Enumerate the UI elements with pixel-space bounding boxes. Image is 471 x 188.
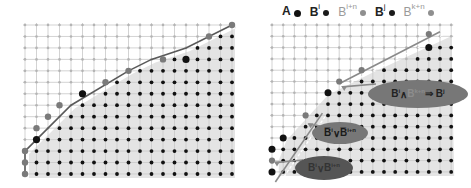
lattice-point-outside	[316, 103, 319, 106]
lattice-point-inside	[427, 170, 431, 174]
lattice-point-inside	[138, 149, 142, 153]
lattice-point-inside	[150, 92, 154, 96]
lattice-point-inside	[161, 161, 165, 165]
lattice-point-outside	[116, 47, 119, 50]
lattice-point-inside	[35, 149, 39, 153]
lattice-point-inside	[161, 69, 165, 73]
lattice-point-inside	[337, 91, 341, 95]
lattice-point-outside	[24, 70, 27, 73]
lattice-point-inside	[326, 114, 330, 118]
lattice-point-inside	[438, 136, 442, 140]
lattice-point-inside	[196, 103, 200, 107]
lattice-point-outside	[271, 69, 274, 72]
lattice-point-outside	[93, 81, 96, 84]
lattice-point-outside	[338, 46, 341, 49]
lattice-point-inside	[127, 80, 131, 84]
lattice-point-outside	[24, 35, 27, 38]
lattice-point-inside	[196, 57, 200, 61]
annotation-term: B̅i	[324, 127, 333, 138]
lattice-point-inside	[382, 114, 386, 118]
lattice-point-outside	[24, 81, 27, 84]
lattice-point-inside	[393, 159, 397, 163]
lattice-point-inside	[326, 102, 330, 106]
lattice-point-inside	[184, 161, 188, 165]
lattice-point-inside	[230, 172, 234, 176]
lattice-point-outside	[327, 46, 330, 49]
lattice-point-inside	[427, 159, 431, 163]
legend: ABiBi+nBjBk+n	[282, 3, 443, 19]
lattice-point-outside	[338, 35, 341, 38]
lattice-point-outside	[293, 24, 296, 27]
lattice-point-inside	[81, 161, 85, 165]
lattice-point-outside	[58, 24, 61, 27]
lattice-point-outside	[173, 47, 176, 50]
lattice-point-inside	[449, 46, 453, 50]
lattice-point-inside	[360, 159, 364, 163]
lattice-point-inside	[104, 172, 108, 176]
lattice-point-outside	[127, 47, 130, 50]
lattice-point-inside	[360, 80, 364, 84]
lattice-point-inside	[416, 125, 420, 129]
lattice-point-inside	[81, 149, 85, 153]
lattice-point-inside	[416, 68, 420, 72]
lattice-point-inside	[449, 170, 453, 174]
vertex-point	[280, 135, 287, 142]
lattice-point-outside	[35, 81, 38, 84]
lattice-point-inside	[207, 126, 211, 130]
lattice-point-inside	[150, 138, 154, 142]
lattice-point-inside	[92, 138, 96, 142]
lattice-point-outside	[293, 80, 296, 83]
lattice-point-outside	[58, 92, 61, 95]
lattice-point-inside	[219, 57, 223, 61]
annotation-term: ∨	[317, 163, 324, 174]
lattice-point-inside	[207, 57, 211, 61]
legend-label: Bk+n	[404, 4, 425, 19]
lattice-point-inside	[360, 147, 364, 151]
lattice-point-outside	[416, 24, 419, 27]
lattice-point-outside	[35, 24, 38, 27]
lattice-point-outside	[304, 35, 307, 38]
lattice-point-outside	[116, 70, 119, 73]
lattice-point-outside	[47, 104, 50, 107]
lattice-point-outside	[282, 24, 285, 27]
lattice-point-inside	[349, 91, 353, 95]
lattice-point-inside	[438, 159, 442, 163]
lattice-point-inside	[127, 149, 131, 153]
lattice-point-inside	[293, 147, 297, 151]
lattice-point-outside	[360, 46, 363, 49]
lattice-point-inside	[81, 126, 85, 130]
lattice-point-inside	[69, 115, 73, 119]
lattice-point-outside	[47, 81, 50, 84]
lattice-point-inside	[438, 147, 442, 151]
lattice-point-inside	[127, 138, 131, 142]
vertex-point	[79, 90, 86, 97]
lattice-point-inside	[393, 68, 397, 72]
lattice-point-outside	[416, 35, 419, 38]
lattice-point-inside	[427, 147, 431, 151]
lattice-point-inside	[196, 149, 200, 153]
lattice-point-inside	[449, 159, 453, 163]
lattice-point-outside	[196, 24, 199, 27]
lattice-point-outside	[139, 47, 142, 50]
boundary-point-gray	[229, 22, 235, 28]
lattice-point-outside	[428, 24, 431, 27]
lattice-point-inside	[416, 114, 420, 118]
lattice-point-outside	[58, 81, 61, 84]
lattice-point-inside	[371, 125, 375, 129]
lattice-point-outside	[338, 69, 341, 72]
lattice-point-inside	[230, 126, 234, 130]
lattice-point-inside	[184, 138, 188, 142]
lattice-point-inside	[416, 136, 420, 140]
lattice-point-outside	[35, 35, 38, 38]
lattice-point-inside	[81, 115, 85, 119]
lattice-point-outside	[293, 114, 296, 117]
lattice-point-outside	[104, 47, 107, 50]
lattice-point-outside	[58, 47, 61, 50]
lattice-point-inside	[184, 103, 188, 107]
lattice-point-outside	[282, 114, 285, 117]
legend-label: Bi+n	[338, 4, 357, 19]
boundary-point-gray	[22, 171, 28, 177]
lattice-point-inside	[230, 57, 234, 61]
lattice-point-inside	[161, 149, 165, 153]
lattice-point-inside	[161, 92, 165, 96]
